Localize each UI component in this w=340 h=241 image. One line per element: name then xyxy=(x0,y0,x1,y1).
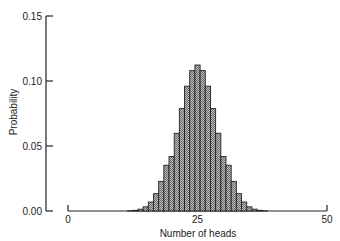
histogram-bar xyxy=(148,202,153,211)
y-axis: 0.000.050.100.15 xyxy=(23,11,53,217)
histogram-bar xyxy=(236,194,241,211)
x-axis-label: Number of heads xyxy=(160,228,237,239)
histogram-bar xyxy=(133,210,138,211)
histogram-bar xyxy=(216,133,221,211)
histogram-chart: 0.000.050.100.15 02550 Probability Numbe… xyxy=(0,0,340,241)
histogram-bar xyxy=(200,71,205,211)
histogram-bar xyxy=(169,157,174,211)
histogram-bar xyxy=(257,210,262,211)
histogram-bar xyxy=(210,109,215,211)
histogram-bar xyxy=(179,109,184,211)
histogram-bar xyxy=(190,71,195,211)
y-tick-label: 0.15 xyxy=(23,11,43,22)
histogram-bar xyxy=(205,86,210,211)
histogram-bar xyxy=(247,207,252,211)
histogram-bar xyxy=(164,165,169,211)
histogram-bar xyxy=(242,202,247,211)
x-tick-label: 0 xyxy=(65,214,71,225)
y-axis-label: Probability xyxy=(8,89,19,136)
histogram-bar xyxy=(252,209,257,211)
histogram-bar xyxy=(153,194,158,211)
y-tick-label: 0.05 xyxy=(23,141,43,152)
histogram-bar xyxy=(159,181,164,211)
histogram-bar xyxy=(221,157,226,211)
y-tick-label: 0.00 xyxy=(23,206,43,217)
histogram-bar xyxy=(138,209,143,211)
histogram-bar xyxy=(195,65,200,211)
histogram-bar xyxy=(226,165,231,211)
bars xyxy=(128,65,268,211)
x-tick-label: 25 xyxy=(192,214,204,225)
histogram-bar xyxy=(231,181,236,211)
histogram-bar xyxy=(174,133,179,211)
histogram-bar xyxy=(185,86,190,211)
x-tick-label: 50 xyxy=(321,214,333,225)
y-tick-label: 0.10 xyxy=(23,76,43,87)
histogram-bar xyxy=(143,207,148,211)
